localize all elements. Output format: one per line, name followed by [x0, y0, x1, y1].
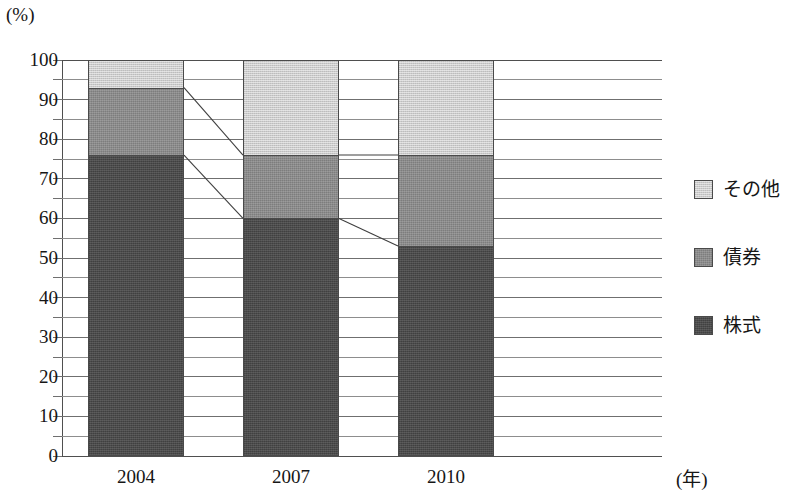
- bar-segment-2004-bonds: [88, 88, 184, 155]
- bar-segment-2004-other: [88, 60, 184, 88]
- y-tick-5: [53, 436, 62, 437]
- y-tick-label-20: 20: [4, 367, 58, 386]
- connector-2007-2010-stocks_top: [339, 218, 398, 246]
- chart-legend: その他 債券 株式: [694, 178, 794, 336]
- y-tick-label-80: 80: [4, 129, 58, 148]
- y-tick-label-70: 70: [4, 169, 58, 188]
- legend-label-other: その他: [723, 180, 780, 199]
- x-tick-label-2007: 2007: [243, 466, 339, 488]
- bar-segment-2007-bonds: [243, 155, 339, 218]
- legend-item-other: その他: [694, 178, 794, 200]
- y-tick-65: [53, 198, 62, 199]
- bar-segment-2010-bonds: [398, 155, 494, 246]
- legend-label-bonds: 債券: [723, 248, 761, 267]
- y-tick-55: [53, 238, 62, 239]
- y-tick-35: [53, 317, 62, 318]
- y-tick-label-90: 90: [4, 90, 58, 109]
- y-tick-label-10: 10: [4, 406, 58, 425]
- y-tick-85: [53, 119, 62, 120]
- bar-segment-2004-stocks: [88, 155, 184, 456]
- y-tick-15: [53, 396, 62, 397]
- legend-swatch-bonds-icon: [694, 248, 713, 267]
- bar-segment-2007-other: [243, 60, 339, 155]
- legend-label-stocks: 株式: [723, 316, 761, 335]
- y-tick-75: [53, 159, 62, 160]
- y-tick-label-50: 50: [4, 248, 58, 267]
- bar-2004: [88, 60, 184, 456]
- x-tick-label-2010: 2010: [398, 466, 494, 488]
- plot-area: 0102030405060708090100: [62, 60, 662, 456]
- bar-segment-2010-stocks: [398, 246, 494, 456]
- legend-item-stocks: 株式: [694, 314, 794, 336]
- legend-item-bonds: 債券: [694, 246, 794, 268]
- bar-segment-2010-other: [398, 60, 494, 155]
- y-tick-45: [53, 277, 62, 278]
- legend-swatch-other-icon: [694, 180, 713, 199]
- y-tick-label-100: 100: [4, 50, 58, 69]
- y-tick-label-60: 60: [4, 208, 58, 227]
- stacked-bar-chart: (%) 0102030405060708090100 200420072010 …: [0, 0, 794, 501]
- y-tick-label-30: 30: [4, 327, 58, 346]
- y-axis-unit-label: (%): [6, 4, 34, 26]
- connector-2004-2007-stocks_top: [184, 155, 243, 218]
- x-axis-unit-label: (年): [676, 464, 708, 491]
- y-tick-25: [53, 357, 62, 358]
- legend-swatch-stocks-icon: [694, 316, 713, 335]
- bar-2007: [243, 60, 339, 456]
- x-tick-label-2004: 2004: [88, 466, 184, 488]
- bar-segment-2007-stocks: [243, 218, 339, 456]
- y-tick-label-40: 40: [4, 288, 58, 307]
- bar-2010: [398, 60, 494, 456]
- y-tick-label-0: 0: [4, 446, 58, 465]
- connector-2004-2007-bonds_top: [184, 88, 243, 155]
- y-tick-95: [53, 79, 62, 80]
